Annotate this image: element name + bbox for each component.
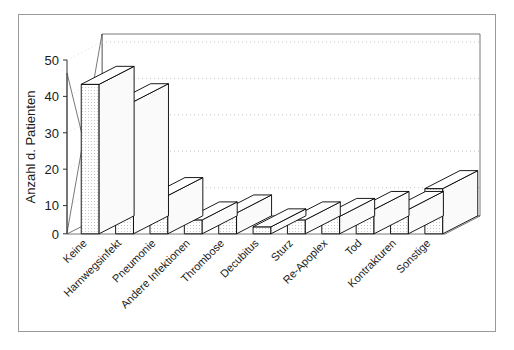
y-axis-title: Anzahl d. Patienten (23, 91, 38, 204)
category-label: Decubitus (218, 236, 261, 279)
bar (81, 66, 134, 233)
figure-border: 0 10 20 30 40 50 Anzahl d. Patienten Son… (18, 14, 496, 332)
category-label: Sturz (268, 237, 295, 264)
ytick-label-10: 10 (45, 198, 59, 213)
ytick-label-30: 30 (45, 126, 59, 141)
y-axis: 0 10 20 30 40 50 (45, 53, 67, 242)
ytick-label-20: 20 (45, 162, 59, 177)
bar-side-face (133, 84, 168, 234)
category-label: Sonstige (394, 237, 433, 276)
figure-caption (22, 341, 492, 350)
bar-front-face (253, 227, 271, 234)
category-label: Tod (343, 237, 364, 258)
category-label: Keine (61, 237, 89, 265)
bar-chart-3d: 0 10 20 30 40 50 Anzahl d. Patienten Son… (19, 15, 495, 331)
depth-gridline-50 (67, 42, 102, 60)
ytick-label-0: 0 (52, 227, 59, 242)
ytick-label-50: 50 (45, 53, 59, 68)
bar-front-face (81, 84, 99, 233)
category-labels: SonstigeKontrakturenTodRe-ApoplexSturzDe… (61, 236, 433, 310)
ytick-label-40: 40 (45, 89, 59, 104)
bar-side-face (99, 66, 134, 233)
